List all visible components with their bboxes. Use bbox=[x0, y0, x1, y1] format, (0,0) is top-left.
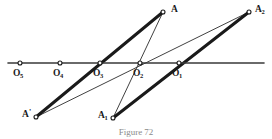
label-subscript-O4: 4 bbox=[60, 72, 63, 79]
point-label-O4: O4 bbox=[53, 69, 64, 79]
point-marker-Aprime bbox=[34, 115, 38, 119]
point-label-A: A bbox=[171, 5, 178, 15]
label-base-Aprime: A bbox=[22, 109, 29, 119]
point-label-O5: O5 bbox=[13, 69, 24, 79]
point-marker-A1 bbox=[111, 116, 115, 120]
point-marker-A2 bbox=[247, 10, 251, 14]
point-marker-O3 bbox=[98, 61, 102, 65]
point-label-O3: O3 bbox=[93, 69, 104, 79]
label-subscript-A1: 1 bbox=[104, 114, 107, 121]
point-label-A2: A2 bbox=[255, 5, 265, 15]
point-label-O2: O2 bbox=[133, 69, 144, 79]
point-label-Aprime: A' bbox=[22, 110, 31, 120]
point-marker-A bbox=[161, 10, 165, 14]
figure-caption: Figure 72 bbox=[0, 128, 272, 139]
point-marker-O1 bbox=[177, 61, 181, 65]
label-subscript-O3: 3 bbox=[100, 72, 103, 79]
label-subscript-O1: 1 bbox=[179, 72, 182, 79]
figure-container: O5O4O3O2O1AA2A'A1 Figure 72 bbox=[0, 0, 272, 139]
label-subscript-O2: 2 bbox=[140, 72, 143, 79]
label-base-A: A bbox=[171, 4, 178, 14]
label-prime-Aprime: ' bbox=[29, 108, 31, 117]
label-subscript-O5: 5 bbox=[20, 72, 23, 79]
point-marker-O5 bbox=[18, 61, 22, 65]
point-label-A1: A1 bbox=[98, 111, 108, 121]
ray-A1-through-O2-to-A bbox=[113, 12, 163, 118]
point-marker-O4 bbox=[58, 61, 62, 65]
label-subscript-A2: 2 bbox=[261, 8, 264, 15]
segment-A1-to-A2 bbox=[113, 12, 249, 118]
point-marker-O2 bbox=[138, 61, 142, 65]
point-label-O1: O1 bbox=[172, 69, 183, 79]
